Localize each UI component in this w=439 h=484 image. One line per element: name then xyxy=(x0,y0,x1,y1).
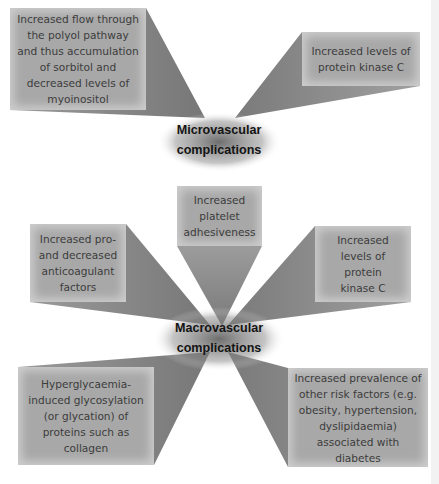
factor-text: Increased levels of protein kinase C xyxy=(308,43,414,75)
factor-text: Increased flow through the polyol pathwa… xyxy=(16,11,140,107)
factor-text: Hyperglycaemia-induced glycosylation (or… xyxy=(24,376,148,456)
factor-box-coagulant: Increased pro- and decreased anticoagula… xyxy=(30,224,126,302)
page-edge xyxy=(431,0,439,484)
factor-text: Increased pro- and decreased anticoagula… xyxy=(36,231,120,295)
factor-box-risk-factors: Increased prevalence of other risk facto… xyxy=(288,368,428,467)
factor-text: Increased levels of protein kinase C xyxy=(333,232,393,296)
factor-box-pkc-macro: Increased levels of protein kinase C xyxy=(315,226,411,302)
factor-text: Increased prevalence of other risk facto… xyxy=(294,370,422,466)
factor-box-platelet: Increased platelet adhesiveness xyxy=(177,186,262,246)
macrovascular-hub-label: Macrovascular complications xyxy=(155,318,283,358)
microvascular-hub-label: Microvascular complications xyxy=(159,120,279,160)
factor-box-glycation: Hyperglycaemia-induced glycosylation (or… xyxy=(18,367,154,465)
factor-text: Increased platelet adhesiveness xyxy=(183,192,256,240)
factor-box-polyol: Increased flow through the polyol pathwa… xyxy=(10,8,146,110)
factor-box-pkc-micro: Increased levels of protein kinase C xyxy=(302,32,420,86)
